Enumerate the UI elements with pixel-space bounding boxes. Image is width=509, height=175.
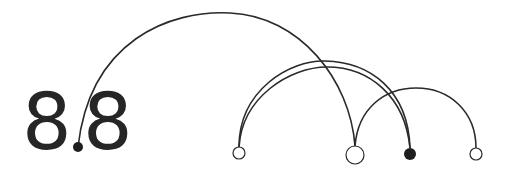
node-1 — [233, 147, 245, 159]
node-4 — [470, 148, 482, 160]
arc-dot-to-n2 — [78, 13, 355, 147]
node-3-filled — [404, 148, 416, 160]
arc-n2-to-n4 — [355, 88, 476, 148]
arc-n1-to-n3-outer — [239, 61, 410, 148]
node-2 — [346, 146, 364, 164]
node-dot — [73, 142, 83, 152]
arc-diagram-svg — [0, 0, 509, 175]
arc-diagram: 8 8 — [0, 0, 509, 175]
arc-n1-to-n3-inner — [239, 67, 410, 148]
